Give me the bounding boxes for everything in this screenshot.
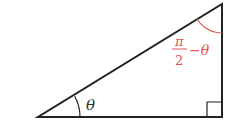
right-angle-marker — [207, 102, 222, 117]
triangle — [38, 4, 222, 117]
two-denominator: 2 — [175, 53, 183, 68]
pi-numerator: π — [174, 34, 184, 49]
theta-arc — [75, 96, 80, 117]
theta-label: θ — [86, 96, 95, 114]
minus-theta-label: −θ — [189, 42, 210, 58]
right-triangle-diagram: θ π 2 −θ — [0, 0, 240, 137]
complement-angle-arc — [197, 19, 222, 33]
